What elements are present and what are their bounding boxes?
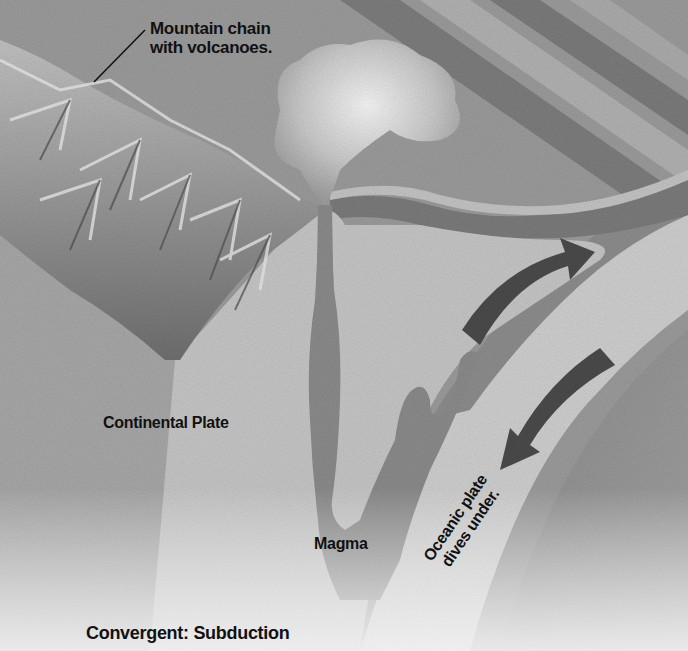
- bottom-fade: [0, 0, 688, 651]
- subduction-diagram: Mountain chain with volcanoes. Continent…: [0, 0, 688, 651]
- label-mountain-line-2: with volcanoes.: [150, 38, 272, 57]
- label-magma: Magma: [314, 535, 368, 553]
- label-continental-plate: Continental Plate: [103, 414, 229, 432]
- diagram-title: Convergent: Subduction: [86, 623, 289, 643]
- label-mountain-chain: Mountain chain with volcanoes.: [150, 19, 272, 57]
- label-mountain-line-1: Mountain chain: [150, 19, 272, 38]
- diagram-artwork: [0, 0, 688, 651]
